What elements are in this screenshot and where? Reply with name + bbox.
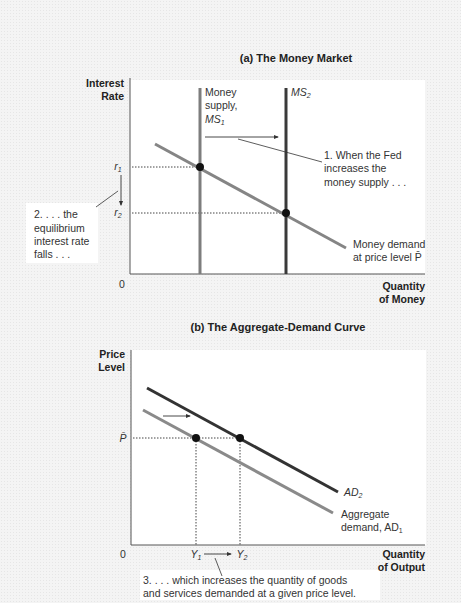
diagram-canvas: (a) The Money Market Interest Rate 0 Qua… <box>0 0 461 603</box>
note2-line2: equilibrium <box>34 222 85 234</box>
money-demand-label-line1: Money demand <box>353 238 426 250</box>
origin-label: 0 <box>119 278 125 290</box>
point-y1 <box>192 434 200 442</box>
ms1-label-line3: MS1 <box>205 113 225 126</box>
price-level-label: P̄ <box>119 432 126 444</box>
y-axis-label-line2: Rate <box>101 90 124 102</box>
ad2-label: AD2 <box>343 486 363 499</box>
ad1-label-line2: demand, AD1 <box>341 521 403 534</box>
x-axis-label-line2: of Money <box>379 293 425 305</box>
equilibrium-point-r1 <box>196 163 204 171</box>
ms2-label: MS2 <box>291 86 311 99</box>
note3-line1: 3. . . . which increases the quantity of… <box>143 574 347 586</box>
note2-line3: interest rate <box>34 235 90 247</box>
note1-line1: 1. When the Fed <box>324 149 402 161</box>
origin-label: 0 <box>120 548 126 560</box>
note1-line2: increases the <box>324 162 387 174</box>
panel-a-title: (a) The Money Market <box>240 52 353 64</box>
note1-line3: money supply . . . <box>324 176 406 188</box>
panel-b: (b) The Aggregate-Demand Curve Price Lev… <box>98 321 425 599</box>
panel-a: (a) The Money Market Interest Rate 0 Qua… <box>34 52 426 305</box>
ad1-curve <box>143 410 333 513</box>
note2-leader-line <box>96 191 118 207</box>
panel-b-title: (b) The Aggregate-Demand Curve <box>190 321 365 333</box>
money-demand-label-line2: at price level P̄ <box>353 251 422 263</box>
y-axis-label-line2: Level <box>98 361 125 373</box>
y1-label: Y1 <box>191 548 202 561</box>
x-axis-label-line2: of Output <box>378 561 426 573</box>
ms1-label-line2: supply, <box>205 99 238 111</box>
y-axis-label-line1: Interest <box>86 77 124 89</box>
note1-leader-line <box>238 139 322 162</box>
x-axis-label-line1: Quantity <box>382 548 425 560</box>
x-axis-label-line1: Quantity <box>382 280 425 292</box>
note2-line1: 2. . . . the <box>34 208 78 220</box>
y2-label: Y2 <box>237 548 248 561</box>
point-y2 <box>236 434 244 442</box>
note3-line2: and services demanded at a given price l… <box>143 587 356 599</box>
note2-line4: falls . . . <box>34 248 70 260</box>
equilibrium-point-r2 <box>282 209 290 217</box>
ad1-label-line1: Aggregate <box>341 508 390 520</box>
money-demand-curve <box>155 144 346 248</box>
r2-label: r2 <box>114 206 122 219</box>
r1-label: r1 <box>114 160 122 173</box>
y-axis-label-line1: Price <box>99 348 125 360</box>
ms1-label-line1: Money <box>205 86 237 98</box>
